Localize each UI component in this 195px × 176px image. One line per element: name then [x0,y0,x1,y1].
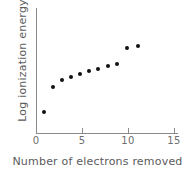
x-axis-tick [82,128,83,134]
data-point [69,75,73,79]
data-point [78,72,82,76]
x-axis-tick-label: 15 [167,135,180,146]
y-axis-line [36,8,37,134]
x-axis-tick [174,128,175,134]
data-point [42,110,46,114]
data-point [115,62,119,66]
data-point [125,46,129,50]
x-axis-tick [128,128,129,134]
x-axis-line [36,133,178,134]
data-point [136,44,140,48]
data-point [87,69,91,73]
x-axis-tick-label: 5 [79,135,86,146]
data-point [106,64,110,68]
data-point [60,78,64,82]
x-axis-tick-label: 0 [33,135,40,146]
x-axis-title: Number of electrons removed [0,155,195,168]
data-point [96,67,100,71]
x-axis-tick [36,128,37,134]
ionization-energy-scatter-chart: 051015 Log ionization energy Number of e… [0,0,195,176]
y-axis-title: Log ionization energy [16,0,29,126]
x-axis-tick-label: 10 [121,135,134,146]
data-point [51,85,55,89]
